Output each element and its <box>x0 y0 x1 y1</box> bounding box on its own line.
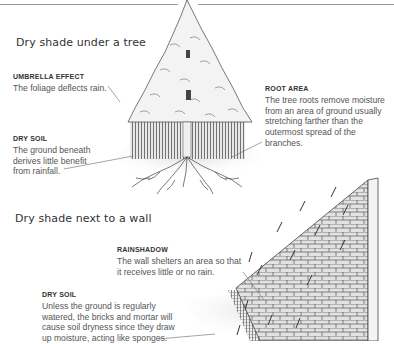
callout-heading: Dry Soil <box>42 290 182 301</box>
callout-root-area: Root Area The tree roots remove moisture… <box>265 84 390 149</box>
section-title-wall: Dry shade next to a wall <box>15 212 152 225</box>
callout-text: Unless the ground is regularly watered, … <box>42 301 182 344</box>
brick-wall-face <box>236 180 368 341</box>
callout-text: The tree roots remove moisture from an a… <box>265 95 390 149</box>
tree-trunk <box>183 122 191 157</box>
callout-umbrella-effect: Umbrella Effect The foliage deflects rai… <box>13 72 133 94</box>
tree-illustration <box>113 0 263 194</box>
callout-heading: Umbrella Effect <box>13 72 133 83</box>
callout-text: The wall shelters an area so that it rec… <box>117 256 247 278</box>
callout-dry-soil-tree: Dry Soil The ground beneath derives litt… <box>13 134 98 177</box>
callout-dry-soil-wall: Dry Soil Unless the ground is regularly … <box>42 290 182 344</box>
callout-heading: Root Area <box>265 84 390 95</box>
callout-text: The foliage deflects rain. <box>13 83 133 94</box>
section-title-tree: Dry shade under a tree <box>16 36 146 49</box>
tree-canopy <box>128 0 252 122</box>
callout-text: The ground beneath derives little benefi… <box>13 145 98 177</box>
callout-heading: Dry Soil <box>13 134 98 145</box>
brick-wall-end <box>368 178 378 341</box>
callout-heading: Rainshadow <box>117 245 247 256</box>
callout-rainshadow: Rainshadow The wall shelters an area so … <box>117 245 247 277</box>
